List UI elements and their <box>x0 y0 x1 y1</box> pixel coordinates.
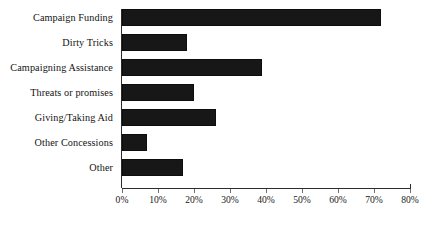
x-axis-tick <box>302 189 303 193</box>
x-axis-tick-label: 0% <box>102 194 142 206</box>
bar-other[interactable] <box>122 159 183 176</box>
category-axis: Campaign Funding Dirty Tricks Campaignin… <box>0 9 117 187</box>
category-label-campaigning-assistance: Campaigning Assistance <box>10 59 113 76</box>
x-axis-tick <box>266 189 267 193</box>
bar-threats-or-promises[interactable] <box>122 84 194 101</box>
bar-other-concessions[interactable] <box>122 134 147 151</box>
x-axis-tick-label: 10% <box>138 194 178 206</box>
bar-giving-taking-aid[interactable] <box>122 109 216 126</box>
x-axis-tick <box>122 189 123 193</box>
x-axis-tick-label: 30% <box>210 194 250 206</box>
category-label-other-concessions: Other Concessions <box>35 134 113 151</box>
x-axis-tick <box>158 189 159 193</box>
category-label-giving-taking-aid: Giving/Taking Aid <box>35 109 113 126</box>
category-label-dirty-tricks: Dirty Tricks <box>62 34 113 51</box>
category-label-threats-or-promises: Threats or promises <box>30 84 113 101</box>
x-axis-tick <box>230 189 231 193</box>
bar-chart: Campaign Funding Dirty Tricks Campaignin… <box>0 0 429 225</box>
x-axis-tick <box>410 189 411 193</box>
x-axis-tick-label: 40% <box>246 194 286 206</box>
x-axis-tick <box>194 189 195 193</box>
bar-campaigning-assistance[interactable] <box>122 59 262 76</box>
x-axis-tick-label: 60% <box>318 194 358 206</box>
x-axis-tick <box>338 189 339 193</box>
category-label-other: Other <box>89 159 113 176</box>
x-axis-tick-label: 20% <box>174 194 214 206</box>
value-axis: 0%10%20%30%40%50%60%70%80% <box>122 189 411 215</box>
bar-dirty-tricks[interactable] <box>122 34 187 51</box>
bar-campaign-funding[interactable] <box>122 9 381 26</box>
x-axis-tick-label: 80% <box>390 194 429 206</box>
x-axis-tick <box>374 189 375 193</box>
x-axis-tick-label: 50% <box>282 194 322 206</box>
category-label-campaign-funding: Campaign Funding <box>33 9 113 26</box>
x-axis-tick-label: 70% <box>354 194 394 206</box>
plot-area <box>122 9 410 187</box>
